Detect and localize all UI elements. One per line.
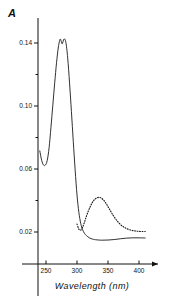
y-axis-ticks xyxy=(34,43,38,232)
x-axis xyxy=(22,261,158,267)
y-axis xyxy=(34,18,38,296)
plot-canvas xyxy=(0,0,184,306)
x-axis-ticks xyxy=(46,261,139,265)
uv-vis-absorbance-figure: A 0.14 0.10 0.06 0.02 250 300 350 400 Wa… xyxy=(0,0,184,306)
difference-dotted-curve xyxy=(77,197,145,231)
absorbance-solid-curve xyxy=(40,39,145,240)
